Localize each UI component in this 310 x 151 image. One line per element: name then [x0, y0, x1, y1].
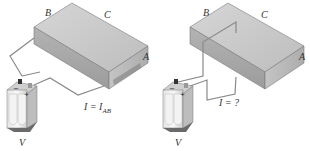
svg-text:−: − — [13, 85, 19, 93]
diagram-canvas: B C A I = IAB − + V B — [0, 0, 310, 151]
svg-text:+: + — [180, 90, 185, 97]
left-panel: B C A I = IAB − + V — [7, 3, 150, 148]
current-label-right: I = ? — [218, 97, 239, 108]
negative-terminal — [18, 79, 22, 84]
label-A: A — [298, 51, 306, 62]
label-C: C — [104, 9, 111, 20]
voltage-label-right: V — [175, 137, 183, 148]
positive-terminal — [28, 83, 32, 88]
right-panel: B C A I = ? − + V — [163, 3, 306, 148]
label-A: A — [142, 51, 150, 62]
negative-terminal — [174, 79, 178, 84]
left-battery: − + — [7, 79, 37, 132]
svg-text:−: − — [169, 85, 175, 93]
right-battery: − + — [163, 79, 193, 132]
current-label-left: I = IAB — [83, 101, 112, 115]
label-C: C — [261, 9, 268, 20]
svg-text:+: + — [24, 90, 29, 97]
voltage-label-left: V — [19, 137, 27, 148]
label-B: B — [45, 7, 51, 18]
positive-terminal — [184, 83, 188, 88]
label-B: B — [203, 7, 209, 18]
